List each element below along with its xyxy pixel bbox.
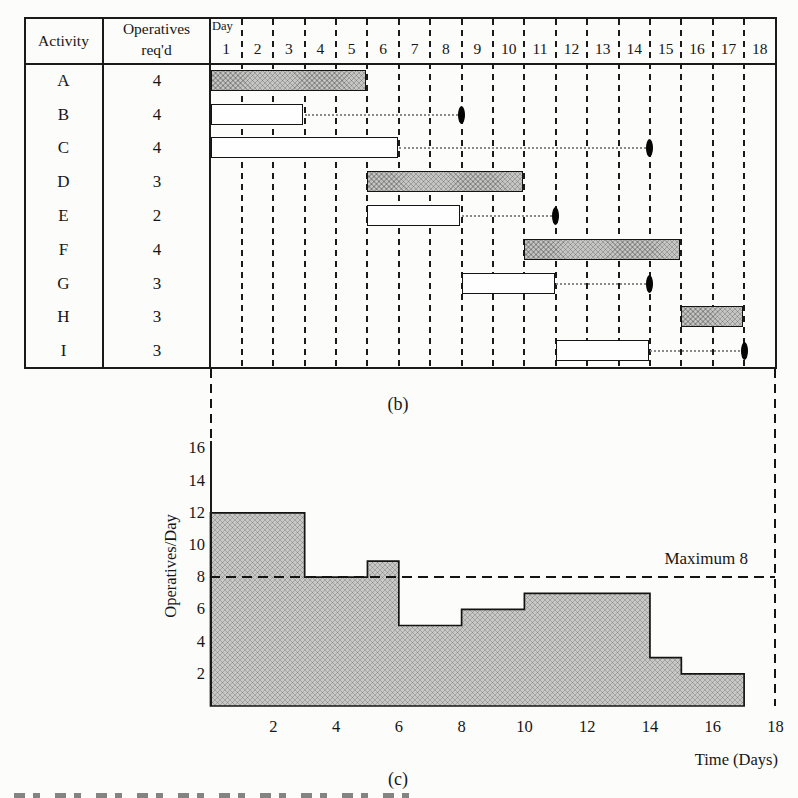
day-number: 17: [713, 38, 744, 60]
x-tick-label: 16: [696, 717, 730, 737]
y-tick-label: 2: [163, 664, 205, 684]
y-tick-label: 16: [163, 438, 205, 458]
day-grid-line: [743, 19, 745, 367]
day-number: 3: [273, 38, 304, 60]
activity-label: F: [24, 239, 103, 261]
day-number: 14: [619, 38, 650, 60]
operatives-value: 3: [104, 306, 210, 328]
day-number: 16: [681, 38, 712, 60]
day-number: 10: [493, 38, 524, 60]
x-tick-label: 14: [633, 717, 667, 737]
operatives-value: 4: [104, 104, 210, 126]
float-line: [650, 350, 744, 352]
day-number: 13: [587, 38, 618, 60]
day-number: 2: [242, 38, 273, 60]
x-tick-label: 4: [319, 717, 353, 737]
activity-label: D: [24, 171, 103, 193]
x-tick-label: 2: [256, 717, 290, 737]
day-grid-line: [618, 19, 620, 367]
activity-label: G: [24, 273, 103, 295]
day-number: 4: [305, 38, 336, 60]
day-grid-line: [492, 19, 494, 367]
y-tick-label: 12: [163, 503, 205, 523]
float-line: [556, 283, 650, 285]
float-end-marker: [741, 342, 748, 360]
float-line: [462, 215, 556, 217]
gantt-bar-I: [556, 340, 649, 361]
gantt-bar-D: [367, 171, 523, 192]
x-tick-label: 6: [382, 717, 416, 737]
day-number: 1: [211, 38, 242, 60]
operatives-value: 4: [104, 239, 210, 261]
activity-label: H: [24, 306, 103, 328]
gantt-bar-F: [524, 239, 680, 260]
gantt-bar-E: [367, 205, 460, 226]
x-tick-label: 12: [570, 717, 604, 737]
x-tick-label: 8: [445, 717, 479, 737]
figure-page: Activity Operatives req'd Day (b) Maximu…: [0, 0, 798, 798]
operatives-value: 4: [104, 137, 210, 159]
gantt-bar-B: [211, 104, 304, 125]
y-tick-label: 8: [163, 567, 205, 587]
day-number: 12: [556, 38, 587, 60]
day-grid-line: [586, 19, 588, 367]
activity-label: I: [24, 340, 103, 362]
float-end-marker: [646, 275, 653, 293]
day-grid-line: [366, 19, 368, 367]
operatives-value: 3: [104, 273, 210, 295]
day-number: 6: [367, 38, 398, 60]
day-grid-line: [523, 19, 525, 367]
y-tick-label: 10: [163, 535, 205, 555]
activity-label: A: [24, 70, 103, 92]
float-end-marker: [458, 106, 465, 124]
gantt-bar-G: [462, 273, 555, 294]
float-end-marker: [646, 139, 653, 157]
activity-label: C: [24, 137, 103, 159]
day-number: 11: [524, 38, 555, 60]
y-tick-label: 6: [163, 599, 205, 619]
day-number: 8: [430, 38, 461, 60]
day-grid-line: [649, 19, 651, 367]
activity-label: B: [24, 104, 103, 126]
day-number: 5: [336, 38, 367, 60]
day-number: 9: [462, 38, 493, 60]
x-tick-label: 10: [507, 717, 541, 737]
day-grid-line: [461, 19, 463, 367]
gantt-bar-C: [211, 137, 398, 158]
operatives-value: 3: [104, 171, 210, 193]
day-number: 18: [744, 38, 775, 60]
operatives-value: 2: [104, 205, 210, 227]
gantt-bar-H: [681, 306, 743, 327]
activity-label: E: [24, 205, 103, 227]
generated-layer: 123456789101112131415161718A4B4C4D3E2F4G…: [0, 0, 798, 798]
float-end-marker: [552, 207, 559, 225]
operatives-value: 3: [104, 340, 210, 362]
day-grid-line: [555, 19, 557, 367]
operatives-value: 4: [104, 70, 210, 92]
day-grid-line: [398, 19, 400, 367]
day-number: 7: [399, 38, 430, 60]
y-tick-label: 14: [163, 471, 205, 491]
x-tick-label: 18: [759, 717, 793, 737]
day-number: 15: [650, 38, 681, 60]
float-line: [305, 114, 462, 116]
gantt-bar-A: [211, 70, 367, 91]
day-grid-line: [429, 19, 431, 367]
float-line: [399, 147, 650, 149]
y-tick-label: 4: [163, 632, 205, 652]
